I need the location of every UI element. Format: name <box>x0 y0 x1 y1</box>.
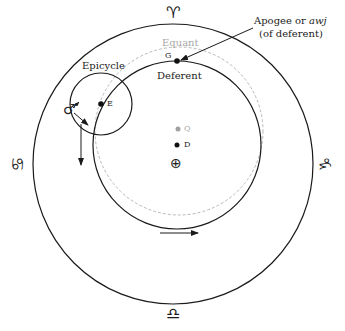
apogee-label: Apogee or awj <box>254 16 327 26</box>
mars-planet-icon: ♂ <box>63 102 76 116</box>
equant-point-q <box>176 127 181 132</box>
point-e-label: E <box>107 100 113 108</box>
apogee-point-g <box>174 58 180 64</box>
libra-symbol: ♎ <box>166 306 180 322</box>
apogee-label-awj: awj <box>309 15 327 26</box>
equant-label: Equant <box>162 38 199 48</box>
capricorn-symbol: ♑ <box>318 157 334 171</box>
deferent-label: Deferent <box>157 71 202 81</box>
aries-symbol: ♈ <box>166 5 180 21</box>
epicycle-diagram: ♈ ♋ ♑ ♎ Apogee or awj (of deferent) Equa… <box>0 0 345 331</box>
apogee-label-prefix: Apogee or <box>254 15 309 26</box>
deferent-center-point-d <box>175 143 180 148</box>
point-g-label: G <box>165 52 171 60</box>
apogee-label-line2: (of deferent) <box>259 29 323 39</box>
epicycle-center-point-e <box>98 101 104 107</box>
point-q-label: Q <box>184 125 191 133</box>
cancer-symbol: ♋ <box>9 157 25 171</box>
epicycle-label: Epicycle <box>82 61 125 71</box>
point-d-label: D <box>184 141 190 149</box>
earth-icon: ⊕ <box>170 156 182 170</box>
